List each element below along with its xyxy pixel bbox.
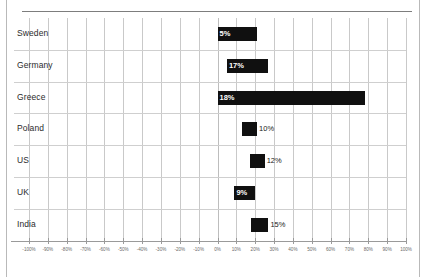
row-separator <box>14 209 406 210</box>
gridline <box>86 18 87 241</box>
x-tick <box>104 238 105 244</box>
category-label-sweden: Sweden <box>17 28 48 38</box>
gridline <box>406 18 407 241</box>
x-tick-label: -90% <box>42 247 53 252</box>
x-tick <box>29 238 30 244</box>
x-tick-label: 60% <box>326 247 335 252</box>
gridline <box>161 18 162 241</box>
figure-top-rule <box>22 11 412 12</box>
x-tick-label: 20% <box>251 247 260 252</box>
x-tick-label: 0% <box>214 247 221 252</box>
x-tick-label: -60% <box>99 247 110 252</box>
x-tick <box>274 238 275 244</box>
bar-value-label-sweden: 5% <box>220 27 231 41</box>
x-tick-label: 80% <box>364 247 373 252</box>
bar-value-label-greece: 18% <box>220 91 235 105</box>
x-tick-label: -10% <box>193 247 204 252</box>
row-separator <box>14 177 406 178</box>
gridline <box>293 18 294 241</box>
x-tick <box>293 238 294 244</box>
x-tick <box>199 238 200 244</box>
category-label-poland: Poland <box>17 123 44 133</box>
chart-figure: SwedenGermanyGreecePolandUSUKIndia 5%17%… <box>0 0 426 277</box>
plot-area: SwedenGermanyGreecePolandUSUKIndia 5%17%… <box>0 18 426 248</box>
bar-value-label-germany: 17% <box>229 59 244 73</box>
bar-us <box>250 154 265 168</box>
x-tick <box>218 238 219 244</box>
x-tick-label: -50% <box>118 247 129 252</box>
x-tick <box>123 238 124 244</box>
x-tick <box>142 238 143 244</box>
x-tick <box>331 238 332 244</box>
x-tick-label: -80% <box>61 247 72 252</box>
x-tick <box>67 238 68 244</box>
row-separator <box>14 50 406 51</box>
bar-india <box>251 218 268 232</box>
bar-poland <box>242 122 257 136</box>
gridline <box>368 18 369 241</box>
gridline <box>349 18 350 241</box>
x-tick <box>387 238 388 244</box>
x-tick <box>86 238 87 244</box>
x-tick <box>180 238 181 244</box>
x-tick-label: -100% <box>22 247 35 252</box>
x-tick <box>161 238 162 244</box>
gridline <box>48 18 49 241</box>
gridline <box>274 18 275 241</box>
x-tick <box>48 238 49 244</box>
category-label-india: India <box>17 219 36 229</box>
x-tick <box>349 238 350 244</box>
bar-value-label-uk: 9% <box>236 186 247 200</box>
bar-greece <box>218 91 365 105</box>
category-label-uk: UK <box>17 187 29 197</box>
x-tick-label: 40% <box>288 247 297 252</box>
x-tick <box>406 238 407 244</box>
x-tick-label: -20% <box>174 247 185 252</box>
x-tick-label: -40% <box>137 247 148 252</box>
gridline <box>199 18 200 241</box>
gridline <box>104 18 105 241</box>
x-tick <box>236 238 237 244</box>
row-separator <box>14 82 406 83</box>
gridline <box>236 18 237 241</box>
x-tick-label: 50% <box>307 247 316 252</box>
gridline <box>123 18 124 241</box>
category-label-germany: Germany <box>17 60 53 70</box>
gridline <box>331 18 332 241</box>
bar-value-label-india: 15% <box>270 218 285 232</box>
gridline <box>67 18 68 241</box>
x-tick <box>368 238 369 244</box>
gridline <box>142 18 143 241</box>
gridline <box>180 18 181 241</box>
bar-value-label-poland: 10% <box>259 122 274 136</box>
bar-value-label-us: 12% <box>267 154 282 168</box>
x-tick-label: 30% <box>269 247 278 252</box>
gridline <box>387 18 388 241</box>
row-separator <box>14 145 406 146</box>
x-tick-label: 90% <box>383 247 392 252</box>
x-tick <box>312 238 313 244</box>
category-label-us: US <box>17 155 29 165</box>
row-separator <box>14 113 406 114</box>
x-tick-label: 100% <box>400 247 412 252</box>
x-tick <box>255 238 256 244</box>
gridline <box>218 18 219 241</box>
x-tick-label: -70% <box>80 247 91 252</box>
x-tick-label: -30% <box>156 247 167 252</box>
x-axis-line <box>11 241 407 242</box>
x-tick-label: 10% <box>232 247 241 252</box>
x-tick-label: 70% <box>345 247 354 252</box>
category-label-greece: Greece <box>17 92 45 102</box>
gridline <box>312 18 313 241</box>
